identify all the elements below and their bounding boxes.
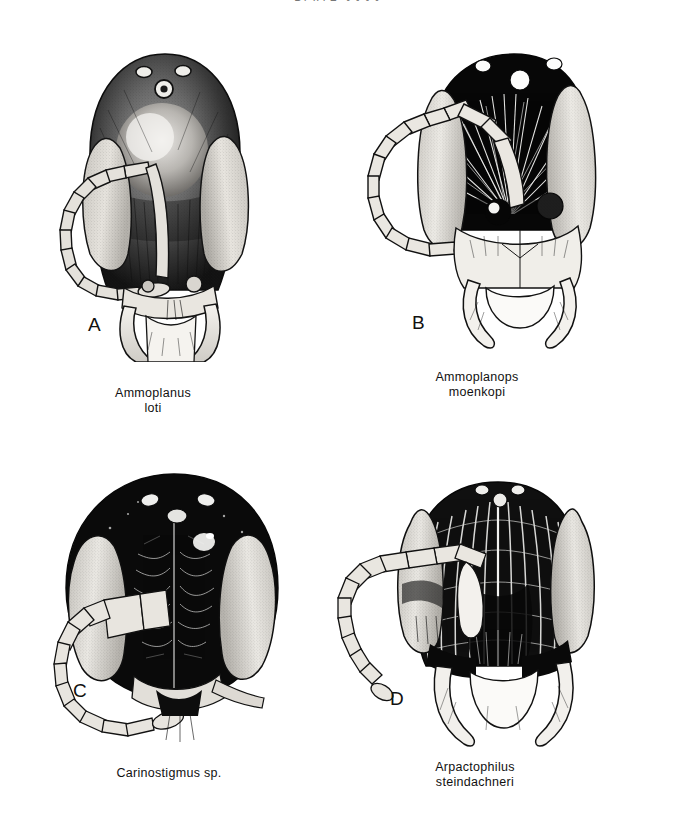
compound-eye-right-d [551, 509, 595, 653]
panel-letter-d: D [390, 688, 404, 710]
figure-panel-a: A [28, 32, 278, 362]
caption-c-taxon: Carinostigmus sp. [38, 766, 300, 781]
panel-letter-c: C [73, 680, 87, 702]
caption-panel-a: Ammoplanus loti [28, 386, 278, 416]
plate-running-head: PLATE XXXX [0, 0, 677, 1]
labrum-d [470, 670, 538, 728]
caption-panel-d: Arpactophilus steindachneri [330, 760, 620, 790]
caption-panel-b: Ammoplanops moenkopi [338, 370, 616, 400]
labrum-b [486, 286, 554, 328]
labrum-a [146, 316, 196, 362]
figure-panel-d: D [330, 466, 620, 748]
panel-letter-a: A [88, 314, 101, 336]
wasp-head-illustration-c [38, 458, 300, 748]
panel-letter-b: B [412, 312, 425, 334]
caption-a-species: loti [28, 401, 278, 416]
caption-d-species: steindachneri [330, 775, 620, 790]
wasp-head-illustration-d [330, 466, 620, 748]
compound-eye-right-b [547, 86, 596, 249]
figure-panel-b: B [338, 44, 616, 354]
caption-panel-c: Carinostigmus sp. [38, 766, 300, 781]
caption-b-species: moenkopi [338, 385, 616, 400]
wasp-head-illustration-a [28, 32, 278, 362]
caption-b-genus: Ammoplanops [338, 370, 616, 385]
compound-eye-left-a [83, 138, 132, 270]
caption-d-genus: Arpactophilus [330, 760, 620, 775]
figure-panel-c: C [38, 458, 300, 748]
compound-eye-right-a [200, 136, 248, 271]
caption-a-genus: Ammoplanus [28, 386, 278, 401]
plate-figure-grid: A [0, 18, 677, 818]
wasp-head-illustration-b [338, 44, 616, 354]
clypeus-b [454, 226, 581, 288]
compound-eye-right-c [219, 535, 275, 679]
